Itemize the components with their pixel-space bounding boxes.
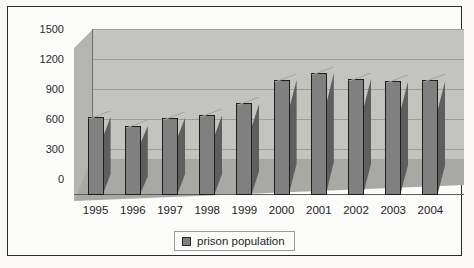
y-tick-0: 0 <box>8 173 64 185</box>
bar-front-2001 <box>311 73 327 195</box>
x-axis-tick-labels: 1995199619971998199920002001200220032004 <box>74 204 474 222</box>
x-tick-2004: 2004 <box>418 204 444 216</box>
y-tick-900: 900 <box>8 83 64 95</box>
bar-front-1995 <box>88 117 104 195</box>
bar-2000 <box>274 80 290 195</box>
y-tick-600: 600 <box>8 113 64 125</box>
bar-front-1996 <box>125 126 141 195</box>
bar-front-2003 <box>385 81 401 195</box>
x-tick-2003: 2003 <box>380 204 406 216</box>
x-tick-1998: 1998 <box>194 204 220 216</box>
plot-area <box>74 29 464 201</box>
gridline-1500 <box>92 29 464 30</box>
bar-front-1998 <box>199 115 215 195</box>
legend-label-prison-population: prison population <box>197 235 285 247</box>
x-tick-2002: 2002 <box>343 204 369 216</box>
bar-1999 <box>236 103 252 195</box>
bar-front-1997 <box>162 118 178 195</box>
y-axis-tick-labels: 030060090012001500 <box>8 29 68 209</box>
y-tick-1200: 1200 <box>8 53 64 65</box>
gridline-1200 <box>92 59 464 60</box>
chart-legend: prison population <box>174 231 295 251</box>
bar-2004 <box>422 80 438 195</box>
x-tick-1999: 1999 <box>232 204 258 216</box>
bar-front-2004 <box>422 80 438 195</box>
y-tick-1500: 1500 <box>8 23 64 35</box>
bar-2002 <box>348 79 364 195</box>
bar-1996 <box>125 126 141 195</box>
bar-1997 <box>162 118 178 195</box>
bar-2003 <box>385 81 401 195</box>
x-tick-2000: 2000 <box>269 204 295 216</box>
bar-front-2002 <box>348 79 364 195</box>
bar-1998 <box>199 115 215 195</box>
y-tick-300: 300 <box>8 143 64 155</box>
bar-2001 <box>311 73 327 195</box>
chart-frame: 030060090012001500 199519961997199819992… <box>7 6 462 256</box>
bar-front-1999 <box>236 103 252 195</box>
bar-front-2000 <box>274 80 290 195</box>
x-tick-1996: 1996 <box>120 204 146 216</box>
x-tick-2001: 2001 <box>306 204 332 216</box>
x-tick-1995: 1995 <box>83 204 109 216</box>
bar-1995 <box>88 117 104 195</box>
legend-swatch-prison-population <box>182 237 191 246</box>
x-tick-1997: 1997 <box>157 204 183 216</box>
